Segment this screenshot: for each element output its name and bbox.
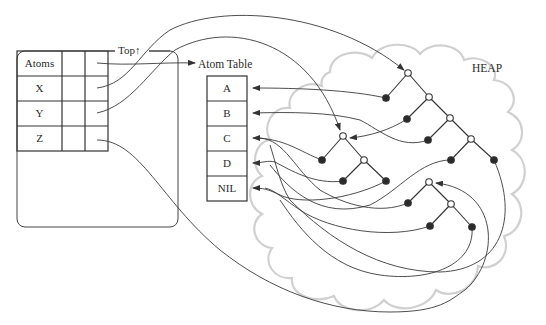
atom-entry-d: D (207, 151, 247, 176)
tree-2-root-node (340, 133, 347, 140)
atom-entry-c: C (207, 126, 247, 151)
symbol-row-atoms: Atoms (17, 51, 62, 76)
tree-1-nodes (383, 70, 498, 164)
symbol-row-z: Z (17, 126, 62, 151)
symbol-row-x: X (17, 76, 62, 101)
atom-entry-nil: NIL (207, 176, 247, 201)
tree-3-nodes (405, 179, 476, 231)
top-pointer-label: Top↑ (118, 45, 140, 56)
heap-label: HEAP (472, 63, 502, 75)
atom-entry-a: A (207, 76, 247, 101)
diagram-canvas (0, 0, 546, 325)
tree-1-root-node (405, 70, 412, 77)
symbol-row-y: Y (17, 101, 62, 126)
atom-entry-b: B (207, 101, 247, 126)
tree-2-nodes (319, 133, 390, 185)
atom-table-title: Atom Table (198, 59, 252, 71)
pointer-curves (97, 15, 505, 312)
tree-3-root-node (426, 179, 433, 186)
